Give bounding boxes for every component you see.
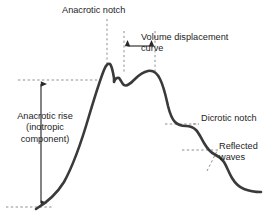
label-anacrotic-rise: Anacrotic rise(inotropiccomponent) [6,111,84,145]
label-reflected-waves: Reflectedwaves [219,141,258,164]
label-volume-displacement-curve: Volume displacementcurve [141,32,228,55]
label-reflected-waves-line1: Reflected [219,141,258,151]
label-volume-displacement-line2: curve [141,43,163,53]
label-anacrotic-rise-line1: Anacrotic rise [17,111,73,121]
label-volume-displacement-line1: Volume displacement [141,32,228,42]
label-reflected-waves-line2: waves [219,152,245,162]
label-dicrotic-notch: Dicrotic notch [201,113,257,124]
label-anacrotic-rise-line2: (inotropic [26,122,64,132]
waveform-canvas [0,0,275,216]
label-anacrotic-rise-line3: component) [21,134,70,144]
label-anacrotic-notch: Anacrotic notch [62,5,125,16]
waveform-figure: Anacrotic notch Volume displacementcurve… [0,0,275,216]
